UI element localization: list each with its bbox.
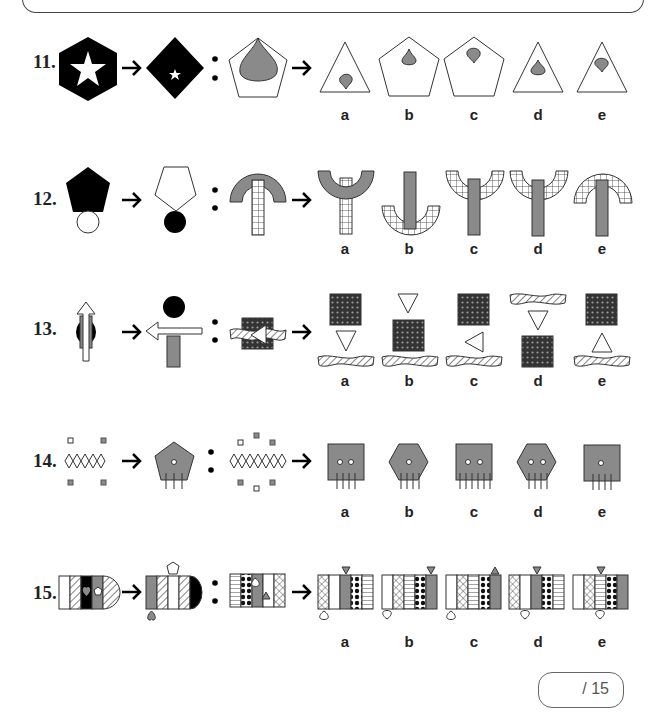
score-label: / 15 xyxy=(582,680,609,698)
q15-option-c[interactable]: c xyxy=(464,633,484,650)
question-15-figures xyxy=(0,0,663,660)
q15-option-e[interactable]: e xyxy=(592,633,612,650)
q15-option-d[interactable]: d xyxy=(528,633,548,650)
q15-option-a[interactable]: a xyxy=(335,633,355,650)
q15-option-b[interactable]: b xyxy=(399,633,419,650)
score-box[interactable]: / 15 xyxy=(538,672,624,708)
